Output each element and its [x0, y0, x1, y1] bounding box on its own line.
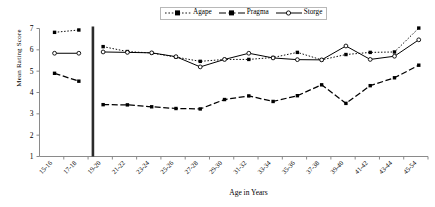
data-point-agape [77, 28, 80, 31]
data-point-pragma [417, 63, 420, 66]
x-tick-label-group: 15-16 [37, 159, 53, 175]
legend-item-storge: Storge [276, 9, 323, 17]
data-point-storge [393, 54, 397, 58]
y-tick-label: 5 [30, 67, 34, 76]
data-point-pragma [101, 103, 104, 106]
y-tick-label: 2 [30, 131, 34, 140]
legend-label-agape: Agape [193, 9, 212, 16]
x-tick-label: 43-44 [377, 159, 393, 175]
x-tick-label-group: 23-24 [135, 159, 151, 175]
x-tick-label: 39-40 [329, 159, 345, 175]
x-tick-label-group: 39-40 [329, 159, 345, 175]
data-point-pragma [296, 94, 299, 97]
y-tick-label: 1 [30, 152, 34, 161]
series-line-pragma-seg0 [55, 73, 79, 81]
x-tick-label-group: 45-54 [402, 159, 418, 175]
line-chart: 123456715-1617-1819-2021-2223-2425-2627-… [0, 0, 435, 207]
x-tick-label: 15-16 [37, 159, 53, 175]
legend-swatch-agape-icon [165, 9, 191, 17]
x-axis-title-text: Age in Years [229, 188, 268, 197]
x-tick-label: 25-26 [159, 159, 175, 175]
x-tick-label: 35-36 [280, 159, 296, 175]
x-tick-label-group: 25-26 [159, 159, 175, 175]
data-point-pragma [150, 105, 153, 108]
data-point-agape [53, 31, 56, 34]
x-tick-label: 33-34 [256, 159, 272, 175]
data-point-pragma [393, 76, 396, 79]
legend-item-agape: Agape [165, 9, 212, 17]
data-point-agape [296, 51, 299, 54]
data-point-pragma [369, 84, 372, 87]
data-point-pragma [53, 72, 56, 75]
plot-area: 123456715-1617-1819-2021-2223-2425-2627-… [0, 0, 435, 207]
legend-swatch-pragma-icon [219, 9, 245, 17]
data-point-storge [295, 58, 299, 62]
data-point-storge [198, 65, 202, 69]
data-point-agape [101, 45, 104, 48]
data-point-storge [344, 44, 348, 48]
data-point-pragma [199, 107, 202, 110]
x-tick-label-group: 19-20 [86, 159, 102, 175]
x-tick-label: 23-24 [135, 159, 151, 175]
y-tick-label: 6 [30, 45, 34, 54]
series-line-agape-seg0 [55, 30, 79, 32]
data-point-storge [320, 58, 324, 62]
legend-item-pragma: Pragma [219, 9, 269, 17]
x-tick-label: 19-20 [86, 159, 102, 175]
x-tick-label: 41-42 [353, 159, 369, 175]
data-point-storge [126, 50, 130, 54]
data-point-storge [150, 51, 154, 55]
data-point-agape [369, 51, 372, 54]
data-point-storge [368, 58, 372, 62]
data-point-storge [77, 51, 81, 55]
data-point-storge [271, 56, 275, 60]
data-point-storge [101, 50, 105, 54]
x-tick-label: 21-22 [110, 159, 126, 175]
x-tick-label: 37-38 [305, 159, 321, 175]
series-line-agape-seg1 [103, 28, 419, 61]
data-point-pragma [320, 83, 323, 86]
data-point-pragma [126, 103, 129, 106]
legend-swatch-storge-icon [276, 9, 302, 17]
data-point-storge [53, 51, 57, 55]
x-tick-label: 31-32 [232, 159, 248, 175]
x-tick-label-group: 21-22 [110, 159, 126, 175]
x-tick-label-group: 33-34 [256, 159, 272, 175]
data-point-pragma [223, 98, 226, 101]
data-point-pragma [77, 79, 80, 82]
legend-label-storge: Storge [304, 9, 323, 16]
data-point-pragma [174, 107, 177, 110]
x-tick-label: 29-30 [207, 159, 223, 175]
x-tick-label: 17-18 [62, 159, 78, 175]
data-point-storge [174, 55, 178, 59]
data-point-pragma [271, 100, 274, 103]
x-tick-label: 45-54 [402, 159, 418, 175]
x-tick-label-group: 43-44 [377, 159, 393, 175]
data-point-storge [417, 38, 421, 42]
x-tick-label-group: 27-28 [183, 159, 199, 175]
data-point-agape [247, 58, 250, 61]
x-tick-label-group: 35-36 [280, 159, 296, 175]
x-tick-label-group: 37-38 [305, 159, 321, 175]
data-point-storge [247, 51, 251, 55]
data-point-agape [199, 60, 202, 63]
data-point-agape [344, 53, 347, 56]
x-tick-label-group: 41-42 [353, 159, 369, 175]
x-tick-label-group: 31-32 [232, 159, 248, 175]
data-point-agape [393, 50, 396, 53]
y-axis-title: Mean Rating Score [15, 3, 23, 113]
x-tick-label: 27-28 [183, 159, 199, 175]
x-tick-label-group: 29-30 [207, 159, 223, 175]
legend-label-pragma: Pragma [247, 9, 269, 16]
data-point-storge [223, 58, 227, 62]
data-point-pragma [344, 102, 347, 105]
x-tick-label-group: 17-18 [62, 159, 78, 175]
y-tick-label: 4 [30, 88, 34, 97]
y-tick-label: 3 [30, 109, 34, 118]
data-point-agape [417, 26, 420, 29]
y-tick-label: 7 [30, 24, 34, 33]
legend: Agape Pragma Storge [160, 7, 327, 20]
x-axis-title: Age in Years [0, 188, 435, 197]
data-point-pragma [247, 94, 250, 97]
